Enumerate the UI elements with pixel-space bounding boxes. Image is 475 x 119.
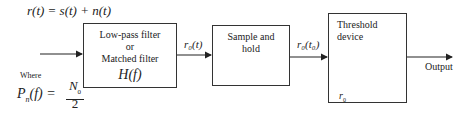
filter-label: Low-pass filter or Matched filter [84, 29, 176, 65]
block-diagram: r(t) = s(t) + n(t) Where Pn(f) = N0 2 Lo… [0, 0, 475, 119]
input-equation: r(t) = s(t) + n(t) [27, 3, 111, 19]
output-label: Output [425, 61, 453, 72]
threshold-symbol: r0 [339, 90, 346, 103]
sample-hold-label: Sample and hold [213, 31, 289, 55]
filter-output-signal: r₀(t) [184, 38, 203, 50]
transfer-function: H(f) [84, 67, 176, 83]
psd-denominator: 2 [66, 96, 84, 112]
sample-output-signal: r₀(t₀) [297, 38, 319, 50]
threshold-label: Threshold device [337, 19, 378, 43]
sample-hold-block: Sample and hold [212, 25, 290, 86]
threshold-block: Threshold device r0 [328, 13, 407, 103]
filter-block: Low-pass filter or Matched filter H(f) [83, 23, 177, 88]
where-label: Where [20, 71, 41, 80]
psd-equation: Pn(f) = [17, 86, 56, 104]
